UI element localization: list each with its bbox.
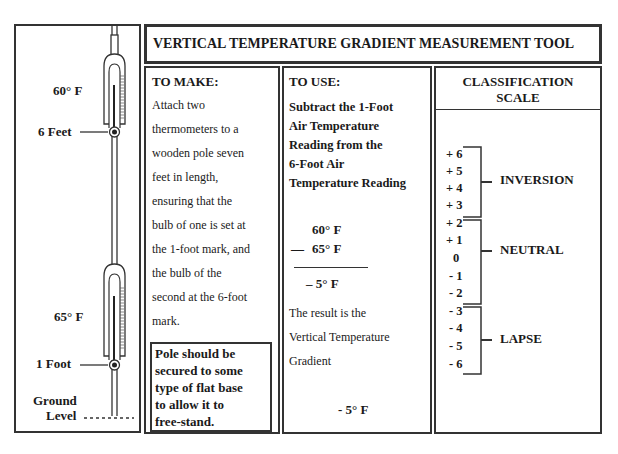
upper-reading-label: 60° F [53, 83, 82, 99]
calc-subtrahend: 65° F [312, 241, 341, 257]
scale-value: + 3 [446, 198, 463, 213]
scale-value: + 6 [446, 147, 463, 162]
to-make-line: bulb of one is set at [152, 218, 246, 233]
to-make-line: thermometers to a [152, 122, 239, 137]
calc-divider [294, 267, 368, 268]
neutral-label: NEUTRAL [500, 242, 564, 258]
note-line: to allow it to [155, 397, 224, 413]
scale-value: + 4 [446, 181, 463, 196]
inversion-label: INVERSION [500, 172, 574, 188]
to-use-heading: TO USE: [289, 74, 340, 90]
calc-minuend: 60° F [312, 222, 341, 238]
scale-value: + 2 [446, 216, 463, 231]
to-make-heading: TO MAKE: [152, 74, 219, 90]
note-box: Pole should be secured to some type of f… [150, 342, 272, 432]
pole-diagram-panel: 60° F 6 Feet 65° F 1 Foot Ground Level [14, 24, 141, 433]
upper-thermometer-icon [104, 54, 125, 137]
lapse-label: LAPSE [500, 331, 542, 347]
instruction-line: Temperature Reading [289, 176, 406, 191]
to-make-line: feet in length, [152, 170, 218, 185]
to-make-line: wooden pole seven [152, 146, 244, 161]
ground-label: Ground [33, 393, 77, 409]
to-make-line: the 1-foot mark, and [152, 242, 250, 257]
note-line: Pole should be [155, 346, 235, 362]
calc-operator: — [291, 241, 304, 257]
note-line: secured to some [155, 363, 243, 379]
scale-value: 0 [453, 251, 459, 266]
six-feet-label: 6 Feet [38, 124, 72, 140]
scale-value: + 1 [446, 233, 463, 248]
note-line: free-stand. [155, 414, 214, 430]
result-line: Gradient [289, 354, 331, 369]
result-line: The result is the [289, 306, 366, 321]
scale-value: - 2 [449, 286, 463, 301]
to-make-panel: TO MAKE: Attach two thermometers to a wo… [144, 66, 280, 434]
note-line: type of flat base [155, 380, 243, 396]
instruction-line: Subtract the 1-Foot [289, 100, 393, 115]
scale-value: - 6 [449, 357, 463, 372]
instruction-line: Reading from the [289, 138, 383, 153]
classification-scale-panel: CLASSIFICATION SCALE + 6 + 5 + 4 + 3 INV… [434, 66, 602, 434]
level-label: Level [46, 408, 76, 424]
calc-result: – 5° F [306, 276, 339, 292]
one-foot-label: 1 Foot [36, 356, 71, 372]
scale-value: + 5 [446, 164, 463, 179]
scale-value: - 4 [449, 321, 463, 336]
to-make-line: Attach two [152, 98, 205, 113]
page-title: VERTICAL TEMPERATURE GRADIENT MEASUREMEN… [153, 36, 574, 52]
to-make-line: second at the 6-foot [152, 290, 247, 305]
to-use-panel: TO USE: Subtract the 1-Foot Air Temperat… [282, 66, 432, 434]
final-gradient-value: - 5° F [338, 402, 368, 418]
to-make-line: mark. [152, 314, 180, 329]
result-line: Vertical Temperature [289, 330, 390, 345]
title-banner: VERTICAL TEMPERATURE GRADIENT MEASUREMEN… [144, 24, 602, 64]
instruction-line: Air Temperature [289, 119, 379, 134]
to-make-line: ensuring that the [152, 194, 232, 209]
scale-value: - 3 [449, 304, 463, 319]
instruction-line: 6-Foot Air [289, 157, 344, 172]
scale-value: - 1 [449, 269, 463, 284]
scale-value: - 5 [449, 339, 463, 354]
to-make-line: the bulb of the [152, 266, 222, 281]
lower-thermometer-icon [104, 264, 125, 370]
lower-reading-label: 65° F [54, 309, 83, 325]
